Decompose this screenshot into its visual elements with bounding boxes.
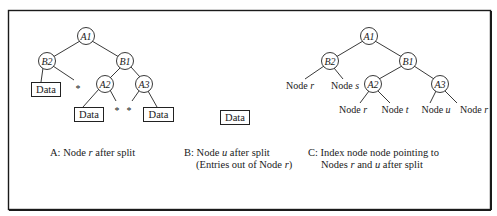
data-box-a3: Data bbox=[144, 108, 174, 122]
leaf-b2-node-s: Node s bbox=[331, 80, 359, 91]
tree-node-b1: B1 bbox=[117, 53, 134, 70]
edge-b1-a2 bbox=[110, 68, 120, 78]
edge-a1-b2 bbox=[53, 41, 80, 57]
panel-a-tree: A1 B2 B1 A2 A3 Data Data Data bbox=[32, 28, 174, 159]
svg-text:Data: Data bbox=[79, 109, 99, 120]
edge-c-b2-s bbox=[334, 68, 343, 79]
data-box-a2: Data bbox=[75, 108, 104, 122]
tree-node-a3: A3 bbox=[136, 76, 153, 93]
caption-c-line2: Nodes r and u after split bbox=[321, 159, 423, 170]
data-box-node-u: Data bbox=[221, 111, 250, 125]
edge-a2-star bbox=[110, 90, 116, 101]
edge-c-a1-b2 bbox=[336, 41, 363, 57]
caption-b-line2: (Entries out of Node r) bbox=[196, 159, 293, 171]
leaf-b2-node-r: Node r bbox=[286, 80, 314, 91]
edge-c-a3-u bbox=[430, 91, 436, 103]
edge-b2-data bbox=[41, 68, 43, 82]
edge-c-a2-t bbox=[378, 91, 390, 103]
leaf-a3-node-r: Node r bbox=[460, 104, 488, 115]
btree-split-diagram: A1 B2 B1 A2 A3 Data Data Data bbox=[0, 0, 497, 216]
caption-a: A: Node r after split bbox=[50, 147, 135, 158]
svg-text:A3: A3 bbox=[137, 79, 149, 90]
empty-pointer-b2: * bbox=[76, 83, 81, 94]
edge-c-b2-r bbox=[305, 66, 324, 79]
svg-text:B1: B1 bbox=[119, 56, 130, 67]
leaf-a2-node-t: Node t bbox=[382, 104, 409, 115]
edge-a3-star bbox=[132, 91, 139, 101]
index-node-b2: B2 bbox=[322, 53, 339, 70]
leaf-a2-node-r: Node r bbox=[339, 104, 367, 115]
leaf-a3-node-u: Node u bbox=[421, 104, 450, 115]
edge-c-b1-a3 bbox=[414, 66, 434, 79]
svg-text:B2: B2 bbox=[324, 56, 335, 67]
svg-text:A2: A2 bbox=[366, 79, 378, 90]
svg-text:B2: B2 bbox=[41, 56, 52, 67]
panel-c-tree: A1 B2 B1 A2 A3 Node r Node s Node r Node… bbox=[286, 28, 488, 171]
edge-a3-data bbox=[148, 91, 157, 107]
caption-c-line1: C: Index node node pointing to bbox=[308, 147, 439, 158]
tree-node-b2: B2 bbox=[39, 53, 56, 70]
edge-a2-data bbox=[83, 89, 99, 107]
edge-b2-star bbox=[53, 66, 74, 80]
svg-text:Data: Data bbox=[149, 109, 169, 120]
svg-text:A1: A1 bbox=[362, 31, 374, 42]
svg-text:Data: Data bbox=[36, 84, 56, 95]
tree-node-a2: A2 bbox=[97, 76, 114, 93]
svg-text:A2: A2 bbox=[98, 79, 110, 90]
caption-b-line1: B: Node u after split bbox=[184, 147, 270, 158]
svg-text:A1: A1 bbox=[79, 31, 91, 42]
edge-c-a2-r bbox=[360, 91, 369, 103]
empty-pointer-a3: * bbox=[127, 105, 132, 116]
data-box-b2: Data bbox=[32, 83, 61, 97]
tree-node-a1: A1 bbox=[78, 28, 95, 45]
index-node-a1: A1 bbox=[361, 28, 378, 45]
edge-c-b1-a2 bbox=[379, 66, 402, 79]
empty-pointer-a2: * bbox=[115, 105, 120, 116]
svg-text:A3: A3 bbox=[433, 79, 445, 90]
index-node-a3: A3 bbox=[432, 76, 449, 93]
edge-a1-b1 bbox=[92, 41, 119, 57]
edge-c-a3-r bbox=[445, 91, 457, 103]
edge-c-a1-b1 bbox=[375, 41, 402, 57]
panel-b: Data B: Node u after split (Entries out … bbox=[184, 111, 293, 172]
edge-b1-a3 bbox=[131, 67, 140, 77]
svg-text:B1: B1 bbox=[402, 56, 413, 67]
svg-text:Data: Data bbox=[225, 112, 245, 123]
index-node-a2: A2 bbox=[365, 76, 382, 93]
index-node-b1: B1 bbox=[400, 53, 417, 70]
